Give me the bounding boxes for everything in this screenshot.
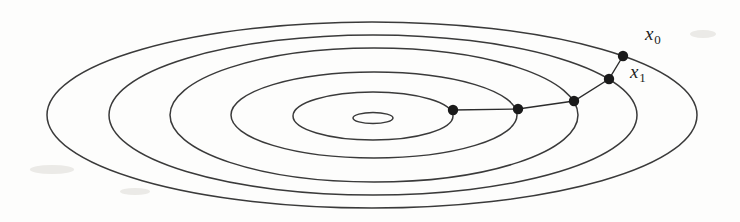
label-x1-base: x [630, 61, 639, 82]
label-x0-base: x [645, 23, 654, 44]
label-x1-subscript: 1 [639, 70, 646, 85]
contour-ellipse-6-outermost [47, 22, 697, 208]
contour-ellipses [47, 22, 697, 208]
path-point-x1 [604, 74, 614, 84]
scan-artifact [30, 165, 74, 174]
contour-ellipse-3 [231, 72, 517, 158]
contour-ellipse-5 [109, 35, 637, 195]
scan-artifact [690, 30, 716, 38]
label-x0: x0 [645, 24, 661, 46]
path-point-x3 [513, 104, 523, 114]
descent-path [453, 56, 623, 110]
contour-plot-svg [0, 0, 740, 222]
path-point-x4 [448, 105, 458, 115]
scan-artifact [120, 188, 150, 195]
contour-ellipse-1-innermost [353, 113, 393, 124]
path-point-x0 [618, 51, 628, 61]
label-x0-subscript: 0 [654, 32, 661, 47]
label-x1: x1 [630, 62, 646, 84]
contour-figure: x0 x1 [0, 0, 740, 222]
contour-ellipse-2 [293, 92, 453, 140]
path-point-x2 [569, 96, 579, 106]
